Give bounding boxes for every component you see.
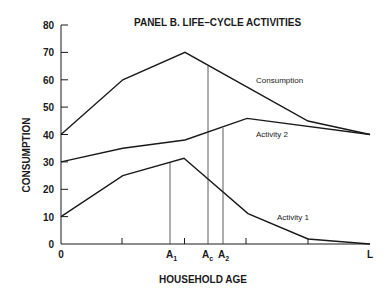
- marker-a2-label: A2: [218, 249, 229, 262]
- x-ticks: [122, 238, 308, 244]
- series-label-activity-1: Activity 1: [277, 213, 310, 222]
- x-tick-0: 0: [58, 249, 64, 260]
- x-tick-L: L: [367, 249, 373, 260]
- series-activity-1: [61, 158, 370, 244]
- y-tick-30: 30: [43, 157, 55, 168]
- y-tick-0: 0: [48, 239, 54, 250]
- series-consumption: [61, 52, 370, 134]
- y-tick-10: 10: [43, 212, 55, 223]
- y-tick-20: 20: [43, 184, 55, 195]
- series-label-activity-2: Activity 2: [256, 130, 289, 139]
- y-tick-80: 80: [43, 20, 55, 31]
- series-label-consumption: Consumption: [256, 76, 303, 85]
- y-tick-50: 50: [43, 102, 55, 113]
- chart-title: PANEL B. LIFE–CYCLE ACTIVITIES: [134, 17, 301, 28]
- y-tick-70: 70: [43, 47, 55, 58]
- life-cycle-chart: PANEL B. LIFE–CYCLE ACTIVITIES 0 10 20 3…: [0, 0, 390, 295]
- y-tick-60: 60: [43, 75, 55, 86]
- y-tick-labels: 0 10 20 30 40 50 60 70 80: [43, 20, 55, 250]
- y-axis-label: CONSUMPTION: [21, 118, 32, 193]
- x-axis-label: HOUSEHOLD AGE: [159, 274, 247, 285]
- y-tick-40: 40: [43, 130, 55, 141]
- marker-ac-label: Ac: [202, 249, 213, 262]
- marker-a1-label: A1: [166, 249, 177, 262]
- y-ticks: [61, 25, 68, 217]
